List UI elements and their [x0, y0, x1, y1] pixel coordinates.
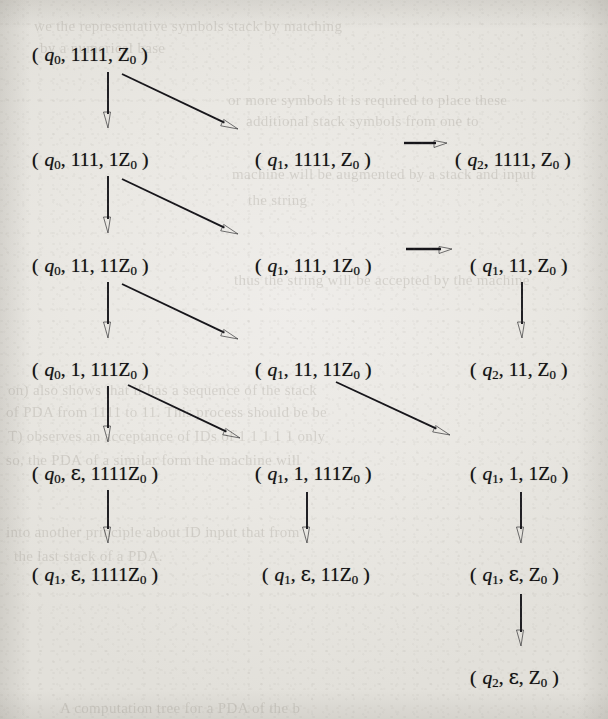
- node-input-string: ε: [509, 563, 519, 586]
- arrow-head: [221, 329, 238, 339]
- arrow-horizontal: [406, 247, 452, 254]
- separator-1: ,: [484, 149, 494, 170]
- separator-2: ,: [519, 463, 529, 484]
- stack-symbols: 11Z: [323, 359, 354, 380]
- node-state: q1: [44, 564, 60, 585]
- node-state: q0: [44, 255, 60, 276]
- open-paren: (: [255, 149, 267, 170]
- open-paren: (: [470, 667, 482, 688]
- node-state: q2: [467, 149, 483, 170]
- close-paren: ): [137, 359, 149, 380]
- arrow-head: [433, 426, 450, 435]
- node-stack-contents: 11Z0: [323, 359, 360, 380]
- configuration-node: ( q0, 1, 111Z0 ): [32, 360, 149, 382]
- stack-symbols: 11Z: [321, 564, 352, 585]
- state-letter: q: [44, 463, 54, 484]
- arrow-vertical: [104, 490, 111, 543]
- node-stack-contents: Z0: [341, 149, 359, 170]
- open-paren: (: [470, 463, 482, 484]
- node-stack-contents: 11Z0: [321, 564, 358, 585]
- state-letter: q: [44, 564, 54, 585]
- node-state: q1: [482, 564, 498, 585]
- node-stack-contents: Z0: [529, 667, 547, 688]
- stack-symbols: Z: [529, 564, 541, 585]
- separator-2: ,: [322, 255, 332, 276]
- separator-2: ,: [99, 149, 109, 170]
- close-paren: ): [547, 667, 559, 688]
- node-input-string: ε: [71, 563, 81, 586]
- open-paren: (: [32, 359, 44, 380]
- stack-symbols: 111Z: [90, 359, 130, 380]
- separator-2: ,: [81, 564, 91, 585]
- arrow-shaft: [128, 385, 226, 432]
- node-input-string: 1111: [71, 44, 108, 65]
- separator-1: ,: [61, 359, 71, 380]
- stack-symbols: Z: [538, 359, 550, 380]
- open-paren: (: [262, 564, 274, 585]
- arrow-head: [439, 247, 452, 254]
- separator-1: ,: [499, 463, 509, 484]
- node-state: q1: [267, 255, 283, 276]
- node-stack-contents: Z0: [541, 149, 559, 170]
- open-paren: (: [32, 255, 44, 276]
- arrow-vertical: [517, 492, 524, 543]
- arrow-head: [104, 217, 111, 233]
- node-stack-contents: Z0: [538, 359, 556, 380]
- state-letter: q: [44, 149, 54, 170]
- arrow-shaft: [122, 74, 224, 123]
- arrow-head: [517, 630, 524, 646]
- separator-2: ,: [108, 44, 118, 65]
- arrow-vertical: [104, 386, 111, 442]
- arrow-shaft: [122, 284, 224, 333]
- node-stack-contents: 1111Z0: [91, 564, 147, 585]
- node-state: q1: [482, 463, 498, 484]
- node-input-string: 1111: [294, 149, 331, 170]
- separator-1: ,: [291, 564, 301, 585]
- node-input-string: 1111: [494, 149, 531, 170]
- close-paren: ): [147, 564, 159, 585]
- node-state: q1: [267, 463, 283, 484]
- arrow-vertical: [517, 594, 524, 646]
- open-paren: (: [255, 463, 267, 484]
- node-input-string: ε: [301, 563, 311, 586]
- configuration-node: ( q1, 11, Z0 ): [470, 256, 568, 278]
- arrow-diagonal: [122, 284, 238, 339]
- separator-1: ,: [499, 255, 509, 276]
- stack-symbols: 1Z: [109, 149, 131, 170]
- configuration-node: ( q0, 11, 11Z0 ): [32, 256, 149, 278]
- node-input-string: 11: [509, 359, 528, 380]
- close-paren: ): [557, 463, 569, 484]
- arrow-vertical: [104, 72, 111, 128]
- stack-symbols: Z: [118, 44, 130, 65]
- node-input-string: 1: [71, 359, 81, 380]
- configuration-node: ( q0, ε, 1111Z0 ): [32, 464, 159, 486]
- node-state: q1: [267, 359, 283, 380]
- close-paren: ): [136, 44, 148, 65]
- node-stack-contents: Z0: [118, 44, 136, 65]
- state-letter: q: [482, 667, 492, 688]
- node-stack-contents: 11Z0: [100, 255, 137, 276]
- arrow-head: [104, 112, 111, 128]
- close-paren: ): [359, 149, 371, 170]
- node-stack-contents: Z0: [538, 255, 556, 276]
- arrow-head: [104, 527, 111, 543]
- separator-2: ,: [519, 564, 529, 585]
- node-input-string: ε: [509, 666, 519, 689]
- arrow-head: [223, 428, 240, 438]
- close-paren: ): [147, 463, 159, 484]
- stack-symbols: 1111Z: [91, 564, 140, 585]
- stack-symbols: Z: [529, 667, 541, 688]
- bleed-through-line: into another principle about ID input th…: [6, 524, 300, 541]
- arrow-head: [517, 527, 524, 543]
- state-letter: q: [274, 564, 284, 585]
- node-stack-contents: Z0: [529, 564, 547, 585]
- separator-2: ,: [331, 149, 341, 170]
- close-paren: ): [360, 463, 372, 484]
- close-paren: ): [137, 149, 149, 170]
- separator-1: ,: [61, 564, 71, 585]
- configuration-node: ( q2, 1111, Z0 ): [455, 150, 572, 172]
- node-state: q0: [44, 149, 60, 170]
- node-state: q1: [274, 564, 290, 585]
- close-paren: ): [360, 359, 372, 380]
- configuration-node: ( q1, 11, 11Z0 ): [255, 360, 372, 382]
